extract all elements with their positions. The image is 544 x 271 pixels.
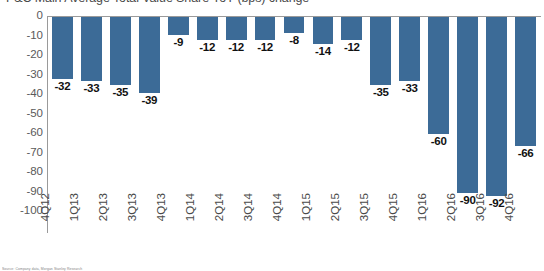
bar[interactable] — [255, 17, 276, 40]
y-axis-tick-label: -70 — [0, 146, 43, 158]
bar-value-label: -35 — [112, 86, 128, 98]
bar-group[interactable]: -9 — [164, 17, 193, 212]
bar-group[interactable]: -12 — [337, 17, 366, 212]
bar-group[interactable]: -60 — [424, 17, 453, 212]
bar-group[interactable]: -35 — [106, 17, 135, 212]
y-axis-tick-label: -90 — [0, 185, 43, 197]
x-axis: 4Q121Q132Q133Q134Q131Q142Q143Q144Q141Q15… — [48, 216, 540, 264]
bar[interactable] — [515, 17, 536, 146]
bar-group[interactable]: -12 — [251, 17, 280, 212]
y-axis-tick-label: -10 — [0, 29, 43, 41]
bar-value-label: -12 — [199, 41, 215, 53]
bar[interactable] — [313, 17, 334, 44]
bar[interactable] — [457, 17, 478, 193]
y-axis-tick-label: 0 — [0, 9, 43, 21]
bar-group[interactable]: -12 — [193, 17, 222, 212]
bar-group[interactable]: -92 — [482, 17, 511, 212]
bar-value-label: -35 — [373, 86, 389, 98]
bar-value-label: -14 — [315, 45, 331, 57]
bar-value-label: -39 — [141, 94, 157, 106]
y-axis-tick-label: -50 — [0, 107, 43, 119]
bar[interactable] — [341, 17, 362, 40]
plot-area: -32-33-35-39-9-12-12-12-8-14-12-35-33-60… — [48, 17, 540, 212]
bar-value-label: -32 — [55, 80, 71, 92]
bar-value-label: -12 — [228, 41, 244, 53]
bar-group[interactable]: -14 — [308, 17, 337, 212]
bar-group[interactable]: -90 — [453, 17, 482, 212]
bar-group[interactable]: -8 — [280, 17, 309, 212]
chart-figure: P&C Main Average Total Value Share YoY (… — [0, 0, 544, 271]
bar-group[interactable]: -33 — [395, 17, 424, 212]
bar[interactable] — [197, 17, 218, 40]
bar[interactable] — [486, 17, 507, 196]
y-axis-tick-label: -20 — [0, 48, 43, 60]
bar[interactable] — [110, 17, 131, 85]
bar-value-label: -33 — [402, 82, 418, 94]
bar-value-label: -8 — [289, 34, 299, 46]
y-axis: 0-10-20-30-40-50-60-70-80-90-100 — [0, 0, 43, 271]
source-note: Source: Company data, Morgan Stanley Res… — [2, 267, 82, 271]
bar-group[interactable]: -32 — [48, 17, 77, 212]
bar-group[interactable]: -12 — [222, 17, 251, 212]
y-axis-tick-label: -100 — [0, 204, 43, 216]
bar-value-label: -66 — [518, 147, 534, 159]
bar-value-label: -12 — [344, 41, 360, 53]
bar-value-label: -60 — [431, 135, 447, 147]
chart-title: P&C Main Average Total Value Share YoY (… — [6, 0, 536, 7]
bar-value-label: -9 — [173, 36, 183, 48]
bar-group[interactable]: -35 — [366, 17, 395, 212]
bar[interactable] — [284, 17, 305, 33]
bar[interactable] — [139, 17, 160, 93]
bar-value-label: -12 — [257, 41, 273, 53]
bar-group[interactable]: -39 — [135, 17, 164, 212]
bar-group[interactable]: -66 — [511, 17, 540, 212]
x-axis-tick-label: 4Q16 — [511, 216, 540, 262]
bar-value-label: -33 — [84, 82, 100, 94]
y-axis-tick-label: -30 — [0, 68, 43, 80]
bar[interactable] — [81, 17, 102, 81]
bar[interactable] — [52, 17, 73, 79]
bar[interactable] — [428, 17, 449, 134]
bar[interactable] — [168, 17, 189, 35]
bar[interactable] — [370, 17, 391, 85]
bar[interactable] — [226, 17, 247, 40]
y-axis-tick-label: -60 — [0, 126, 43, 138]
y-axis-tick-label: -80 — [0, 165, 43, 177]
bar[interactable] — [399, 17, 420, 81]
bar-group[interactable]: -33 — [77, 17, 106, 212]
y-axis-tick-label: -40 — [0, 87, 43, 99]
